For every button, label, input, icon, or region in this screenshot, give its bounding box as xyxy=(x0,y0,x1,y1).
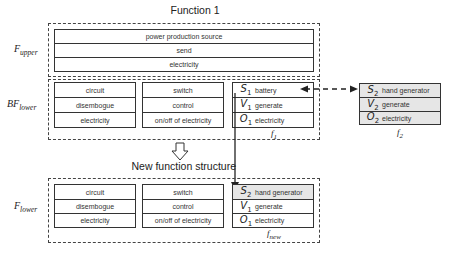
fnew-row-object: O1electricity xyxy=(233,214,313,227)
table-cell: on/off of electricity xyxy=(143,214,223,227)
table-cell: switch xyxy=(143,185,223,200)
lower-table-switch: switch control on/off of electricity xyxy=(142,184,224,228)
table-cell: control xyxy=(143,200,223,214)
fnew-table: S2hand generator V1generate O1electricit… xyxy=(232,184,314,228)
new-structure-title: New function structure xyxy=(120,160,236,172)
table-cell: electricity xyxy=(55,214,135,227)
fnew-row-verb: V1generate xyxy=(233,200,313,214)
table-cell: disembogue xyxy=(55,200,135,214)
lower-label: Flower xyxy=(14,200,37,214)
table-cell: circuit xyxy=(55,185,135,200)
fnew-row-source: S2hand generator xyxy=(233,185,313,200)
lower-table-circuit: circuit disembogue electricity xyxy=(54,184,136,228)
fnew-caption: fnew xyxy=(258,228,290,241)
